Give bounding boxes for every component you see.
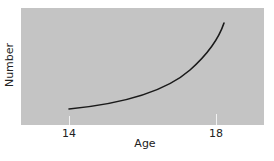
chart: 14 18 Age Number bbox=[0, 0, 274, 161]
x-tick-label-18: 18 bbox=[209, 127, 223, 140]
x-tick-label-14: 14 bbox=[62, 127, 76, 140]
x-axis-label: Age bbox=[134, 137, 156, 150]
plot-area bbox=[21, 8, 264, 125]
y-axis-label: Number bbox=[3, 42, 16, 87]
